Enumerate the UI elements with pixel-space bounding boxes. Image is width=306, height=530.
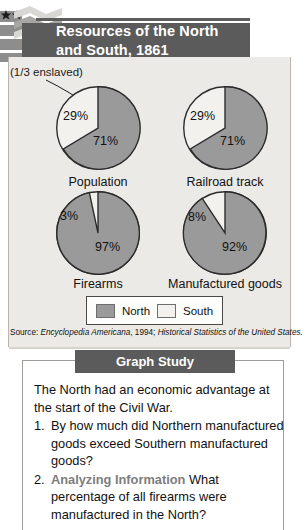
question-number: 2. bbox=[34, 471, 51, 524]
page-root: Resources of the North and South, 1861 (… bbox=[0, 0, 306, 530]
question-item: 1. By how much did Northern manufactured… bbox=[34, 417, 284, 470]
pie-railroad-track bbox=[182, 85, 268, 175]
page-title: Resources of the North and South, 1861 bbox=[56, 22, 252, 59]
legend-label-north: North bbox=[122, 305, 150, 317]
pie-manufactured-caption: Manufactured goods bbox=[155, 277, 295, 291]
source-title-1: Encyclopedia Americana bbox=[41, 328, 131, 337]
source-middle: , 1994; bbox=[130, 328, 157, 337]
graph-study-banner: Graph Study bbox=[75, 350, 235, 373]
legend-swatch-north bbox=[96, 304, 115, 318]
pie-firearms-north-value: 97% bbox=[95, 240, 120, 254]
source-prefix: Source: bbox=[10, 328, 41, 337]
pie-manufactured-goods bbox=[182, 190, 268, 280]
pie-railroad-north-value: 71% bbox=[220, 134, 245, 148]
graph-study-questions: 1. By how much did Northern manufactured… bbox=[34, 417, 284, 524]
chart-source: Source: Encyclopedia Americana, 1994; Hi… bbox=[10, 328, 300, 337]
pie-manufactured-south-value: 8% bbox=[188, 210, 206, 224]
pie-population-south-value: 29% bbox=[63, 109, 88, 123]
question-text: Analyzing Information What percentage of… bbox=[51, 471, 284, 524]
pie-population-caption: Population bbox=[28, 175, 168, 189]
pie-firearms-caption: Firearms bbox=[28, 277, 168, 291]
pie-manufactured-north-value: 92% bbox=[222, 240, 247, 254]
legend-swatch-south bbox=[157, 304, 176, 318]
legend-label-south: South bbox=[183, 305, 213, 317]
question-item: 2. Analyzing Information What percentage… bbox=[34, 471, 284, 524]
pie-population bbox=[55, 85, 141, 175]
question-emphasis: Analyzing Information bbox=[51, 472, 185, 487]
title-rule bbox=[36, 18, 250, 21]
question-text: By how much did Northern manufactured go… bbox=[51, 417, 284, 470]
pie-railroad-caption: Railroad track bbox=[155, 175, 295, 189]
source-title-2: Historical Statistics of the United Stat… bbox=[158, 328, 303, 337]
graph-study-title: Graph Study bbox=[116, 354, 194, 369]
question-number: 1. bbox=[34, 417, 51, 470]
enslaved-annotation: (1/3 enslaved) bbox=[10, 66, 83, 78]
pie-population-north-value: 71% bbox=[93, 134, 118, 148]
panel-shadow bbox=[9, 347, 290, 349]
graph-study-intro: The North had an economic advantage at t… bbox=[34, 381, 280, 416]
chart-legend: North South bbox=[86, 296, 223, 325]
pie-firearms-south-value: 3% bbox=[60, 209, 78, 223]
pie-railroad-south-value: 29% bbox=[190, 109, 215, 123]
page-title-line1: Resources of the North bbox=[56, 22, 252, 41]
pie-firearms bbox=[55, 190, 141, 280]
